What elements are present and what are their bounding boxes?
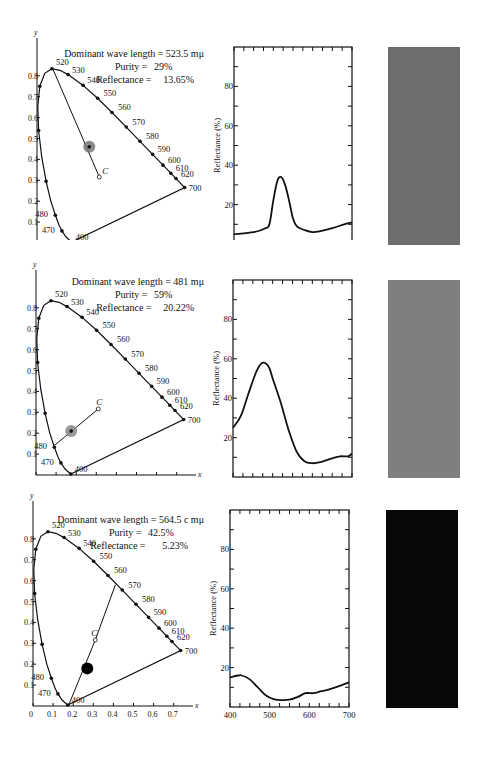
dominant-wavelength-value: 564.5 c mμ (159, 514, 204, 525)
svg-text:0.3: 0.3 (24, 639, 34, 648)
svg-text:0.5: 0.5 (24, 598, 34, 607)
svg-text:0.7: 0.7 (27, 325, 37, 334)
color-swatch-3 (386, 510, 458, 708)
svg-text:0.1: 0.1 (28, 218, 38, 227)
svg-text:0.4: 0.4 (107, 710, 117, 719)
svg-text:Reflectance (%): Reflectance (%) (212, 118, 222, 173)
svg-text:500: 500 (263, 710, 276, 720)
purity-value: 59% (150, 288, 194, 301)
svg-text:480: 480 (34, 441, 47, 451)
reflectance-value: 20.22% (154, 301, 194, 314)
purity-label: Purity = (115, 289, 148, 300)
svg-text:0.6: 0.6 (24, 577, 34, 586)
svg-text:60: 60 (221, 584, 230, 594)
svg-text:590: 590 (154, 607, 167, 617)
svg-text:620: 620 (177, 632, 190, 642)
svg-text:60: 60 (224, 354, 233, 364)
svg-text:470: 470 (38, 688, 51, 698)
svg-text:0.4: 0.4 (28, 155, 38, 164)
svg-text:550: 550 (104, 88, 117, 98)
svg-text:0.1: 0.1 (24, 681, 34, 690)
svg-text:0.8: 0.8 (24, 535, 34, 544)
svg-text:400: 400 (76, 232, 89, 240)
color-swatch-2 (388, 280, 460, 478)
svg-text:550: 550 (103, 320, 116, 330)
svg-text:0.8: 0.8 (27, 304, 37, 313)
svg-text:20: 20 (224, 433, 233, 443)
svg-text:0.2: 0.2 (28, 197, 38, 206)
svg-text:0.7: 0.7 (168, 710, 178, 719)
cie-diagram-1: yx00.10.20.30.40.50.60.70.10.20.30.40.50… (0, 0, 230, 240)
svg-text:620: 620 (180, 401, 193, 411)
svg-text:580: 580 (146, 131, 159, 141)
svg-text:470: 470 (42, 225, 55, 235)
svg-text:700: 700 (188, 415, 201, 425)
svg-text:80: 80 (224, 314, 233, 324)
panel-3: yx00.10.20.30.40.50.60.70.10.20.30.40.50… (0, 480, 480, 720)
dominant-wavelength-label: Dominant wave length = (72, 276, 171, 287)
svg-text:0.3: 0.3 (87, 710, 97, 719)
reflectance-chart-1: 20406080400500600700Wavelength (mμ)Refle… (200, 0, 360, 240)
svg-text:0.2: 0.2 (24, 660, 34, 669)
svg-text:0.3: 0.3 (28, 176, 38, 185)
svg-text:0.7: 0.7 (24, 556, 34, 565)
panel-2: yx00.10.20.30.40.50.60.70.10.20.30.40.50… (0, 240, 480, 480)
svg-text:40: 40 (225, 160, 234, 170)
svg-text:y: y (33, 28, 38, 37)
info-block-2: Dominant wave length = 481 mμ Purity = 5… (64, 275, 204, 314)
svg-text:570: 570 (128, 580, 141, 590)
svg-text:x: x (194, 701, 199, 710)
info-block-3: Dominant wave length = 564.5 c mμ Purity… (54, 513, 204, 552)
reflectance-chart-3: 20406080400500600700Wavelength (mμ)Refle… (200, 480, 360, 720)
svg-text:580: 580 (142, 594, 155, 604)
svg-text:C: C (102, 166, 109, 176)
svg-text:Reflectance (%): Reflectance (%) (211, 351, 221, 406)
svg-text:400: 400 (72, 695, 85, 705)
purity-value: 42.5% (144, 526, 188, 539)
svg-text:590: 590 (157, 376, 170, 386)
dominant-wavelength-value: 523.5 mμ (166, 48, 204, 59)
purity-value: 29% (150, 60, 194, 73)
svg-text:570: 570 (132, 117, 145, 127)
svg-text:590: 590 (158, 144, 171, 154)
reflectance-label: Reflectance = (90, 540, 145, 551)
svg-text:400: 400 (75, 464, 88, 474)
purity-label: Purity = (109, 527, 142, 538)
svg-text:0.4: 0.4 (24, 618, 34, 627)
svg-text:y: y (29, 491, 34, 500)
svg-text:0.2: 0.2 (67, 710, 77, 719)
color-swatch-1 (388, 47, 460, 245)
svg-text:560: 560 (117, 334, 130, 344)
svg-text:40: 40 (221, 623, 230, 633)
panel-1: yx00.10.20.30.40.50.60.70.10.20.30.40.50… (0, 0, 480, 240)
svg-text:y: y (32, 260, 37, 269)
info-block-1: Dominant wave length = 523.5 mμ Purity =… (64, 47, 204, 86)
svg-text:0.3: 0.3 (27, 408, 37, 417)
svg-text:600: 600 (303, 710, 316, 720)
svg-text:560: 560 (114, 565, 127, 575)
svg-text:480: 480 (35, 209, 48, 219)
svg-text:0.1: 0.1 (27, 450, 37, 459)
svg-text:470: 470 (41, 457, 54, 467)
svg-text:560: 560 (118, 102, 131, 112)
svg-text:0.5: 0.5 (128, 710, 138, 719)
reflectance-chart-2: 20406080400500600700Wavelength (mμ)Refle… (200, 240, 360, 480)
svg-text:80: 80 (221, 544, 230, 554)
svg-text:0.4: 0.4 (27, 387, 37, 396)
svg-text:20: 20 (221, 663, 230, 673)
reflectance-value: 13.65% (154, 73, 194, 86)
svg-text:570: 570 (131, 349, 144, 359)
purity-label: Purity = (115, 61, 148, 72)
svg-text:700: 700 (185, 646, 198, 656)
svg-text:580: 580 (145, 363, 158, 373)
svg-text:400: 400 (224, 710, 237, 720)
dominant-wavelength-label: Dominant wave length = (57, 514, 156, 525)
svg-text:550: 550 (100, 551, 113, 561)
reflectance-label: Reflectance = (96, 74, 151, 85)
svg-text:0.2: 0.2 (27, 429, 37, 438)
svg-text:0.5: 0.5 (28, 135, 38, 144)
svg-text:60: 60 (225, 121, 234, 131)
reflectance-value: 5.23% (148, 539, 188, 552)
svg-text:0.6: 0.6 (148, 710, 158, 719)
svg-text:0: 0 (29, 710, 33, 719)
